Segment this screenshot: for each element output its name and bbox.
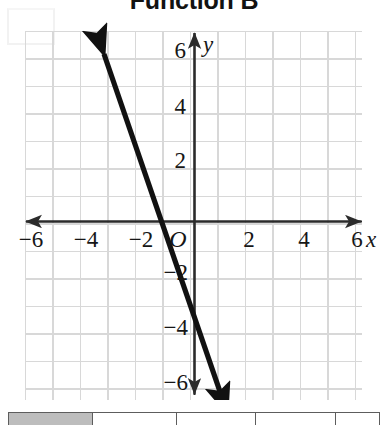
axes [26,33,362,395]
y-tick-label: −2 [164,260,188,285]
x-tick-label: 6 [351,227,363,252]
y-tick-label: −6 [164,370,188,395]
x-tick-label: −2 [129,227,153,252]
table-cell [93,413,177,425]
y-tick-label: 6 [175,38,187,63]
x-tick-label: −4 [74,227,99,252]
y-tick-label: 4 [175,94,187,119]
figure-title: Function B [0,0,388,15]
origin-label: O [169,226,186,252]
y-axis-label: y [201,32,214,57]
coordinate-plane: −6 −4 −2 O 2 4 6 6 4 2 −2 −4 −6 y x [0,20,388,400]
x-tick-label: 2 [243,227,255,252]
table-cell [336,413,380,425]
x-axis-label: x [365,227,377,252]
table-cell [256,413,336,425]
graph-figure: Function B [0,0,388,425]
x-tick-label: 4 [298,227,310,252]
y-tick-label: −4 [164,315,189,340]
table-cell [177,413,257,425]
x-tick-label: −6 [19,227,43,252]
y-tick-label: 2 [175,148,187,173]
table-cell [9,413,93,425]
bottom-table-row [8,412,380,425]
function-line [104,54,227,400]
